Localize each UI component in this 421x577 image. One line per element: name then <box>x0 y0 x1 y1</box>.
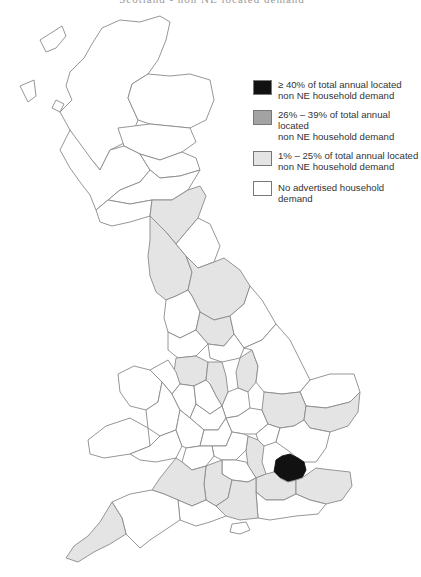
region-cornwall <box>66 502 126 562</box>
region-isle-of-wight <box>230 522 250 534</box>
legend-item-mid: 26% – 39% of total annual located non NE… <box>253 109 421 142</box>
legend-swatch-high <box>253 80 272 95</box>
legend-item-high: ≥ 40% of total annual located non NE hou… <box>253 79 421 101</box>
region-western-isles-islands <box>20 26 66 112</box>
legend-label-low: 1% – 25% of total annual located non NE … <box>278 150 418 172</box>
legend-label-line: No advertised household demand <box>278 182 421 204</box>
legend-label-line: non NE household demand <box>278 90 402 101</box>
legend-swatch-low <box>253 151 272 166</box>
legend-label-mid: 26% – 39% of total annual located non NE… <box>278 109 421 142</box>
legend-label-line: non NE household demand <box>278 161 418 172</box>
legend-label-line: non NE household demand <box>278 131 421 142</box>
legend-label-line: 26% – 39% of total annual located <box>278 109 421 131</box>
map-legend: ≥ 40% of total annual located non NE hou… <box>253 79 421 212</box>
legend-label-line: ≥ 40% of total annual located <box>278 79 402 90</box>
legend-swatch-mid <box>253 110 272 125</box>
region-dumfries <box>96 200 152 226</box>
legend-swatch-none <box>253 181 272 196</box>
legend-label-none: No advertised household demand <box>278 182 421 204</box>
legend-item-low: 1% – 25% of total annual located non NE … <box>253 150 421 172</box>
legend-item-none: No advertised household demand <box>253 180 421 204</box>
legend-label-line: 1% – 25% of total annual located <box>278 150 418 161</box>
legend-label-high: ≥ 40% of total annual located non NE hou… <box>278 79 402 101</box>
region-grampian <box>128 74 214 128</box>
